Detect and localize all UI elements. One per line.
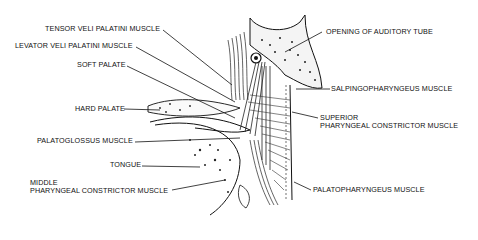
label-opening-auditory-tube: OPENING OF AUDITORY TUBE: [326, 28, 433, 37]
label-levator-veli-palatini: LEVATOR VELI PALATINI MUSCLE: [15, 42, 133, 51]
label-tongue: TONGUE: [110, 161, 141, 170]
label-tensor-veli-palatini: TENSOR VELI PALATINI MUSCLE: [45, 25, 160, 34]
label-superior-constrictor-line2: PHARYNGEAL CONSTRICTOR MUSCLE: [320, 122, 458, 131]
label-soft-palate: SOFT PALATE: [77, 61, 126, 70]
label-palatoglossus: PALATOGLOSSUS MUSCLE: [37, 137, 133, 146]
label-salpingopharyngeus: SALPINGOPHARYNGEUS MUSCLE: [331, 85, 452, 94]
label-palatopharyngeus: PALATOPHARYNGEUS MUSCLE: [313, 186, 425, 195]
label-hard-palate: HARD PALATE: [75, 105, 125, 114]
label-middle-constrictor-line2: PHARYNGEAL CONSTRICTOR MUSCLE: [30, 187, 168, 196]
